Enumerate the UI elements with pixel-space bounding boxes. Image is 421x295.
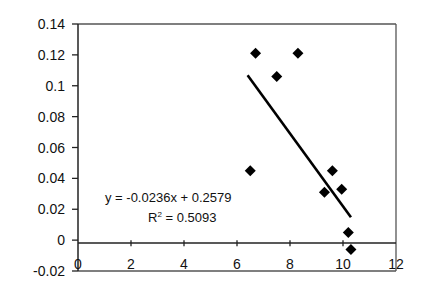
scatter-chart: 0.140.120.10.080.060.040.020-0.02 024681… xyxy=(0,0,421,295)
x-tick-label: 6 xyxy=(233,256,241,272)
data-point-diamond xyxy=(271,71,282,82)
data-point-diamond xyxy=(250,48,261,59)
trendline-equation: y = -0.0236x + 0.2579 xyxy=(105,190,231,205)
data-point-diamond xyxy=(319,187,330,198)
y-tick-label: 0.12 xyxy=(38,47,65,63)
data-point-diamond xyxy=(292,48,303,59)
y-tick-label: 0.14 xyxy=(38,16,65,32)
data-point-diamond xyxy=(345,244,356,255)
trendline xyxy=(248,75,351,217)
data-point-diamond xyxy=(245,165,256,176)
x-axis: 024681012 xyxy=(74,240,404,272)
x-tick-label: 2 xyxy=(127,256,135,272)
x-tick-label: 0 xyxy=(74,256,82,272)
y-tick-label: 0.04 xyxy=(38,170,65,186)
data-point-diamond xyxy=(343,227,354,238)
y-tick-label: -0.02 xyxy=(33,263,65,279)
x-tick-label: 10 xyxy=(335,256,351,272)
y-tick-label: 0.06 xyxy=(38,140,65,156)
y-tick-label: 0.02 xyxy=(38,201,65,217)
x-tick-label: 4 xyxy=(180,256,188,272)
y-tick-label: 0.08 xyxy=(38,109,65,125)
data-points xyxy=(245,48,357,255)
y-axis: 0.140.120.10.080.060.040.020-0.02 xyxy=(33,16,78,279)
r-squared-symbol: R xyxy=(148,210,157,225)
x-tick-label: 12 xyxy=(388,256,404,272)
y-tick-label: 0 xyxy=(57,232,65,248)
data-point-diamond xyxy=(336,184,347,195)
y-tick-label: 0.1 xyxy=(46,78,66,94)
r-squared-label: R2 = 0.5093 xyxy=(148,210,216,225)
x-tick-label: 8 xyxy=(286,256,294,272)
data-point-diamond xyxy=(327,165,338,176)
r-squared-value: = 0.5093 xyxy=(162,210,217,225)
